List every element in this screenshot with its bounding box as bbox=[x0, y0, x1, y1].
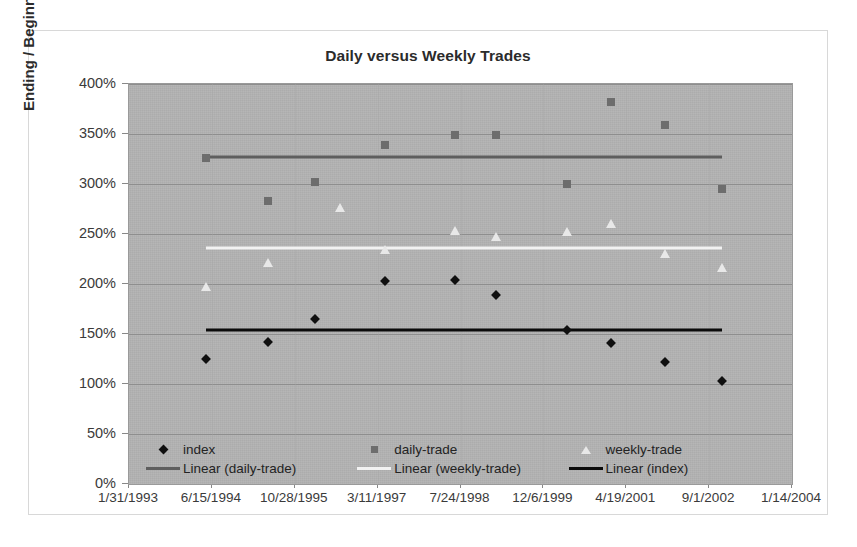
data-point-daily-trade bbox=[311, 178, 319, 186]
x-tick-label: 4/19/2001 bbox=[595, 490, 655, 505]
y-tick-label: 50% bbox=[30, 425, 116, 441]
y-tick-label: 100% bbox=[30, 375, 116, 391]
x-tick-label: 12/6/1999 bbox=[512, 490, 572, 505]
data-point-daily-trade bbox=[381, 141, 389, 149]
trendline bbox=[206, 155, 721, 158]
chart-title: Daily versus Weekly Trades bbox=[29, 47, 827, 65]
y-tick-label: 150% bbox=[30, 325, 116, 341]
legend-label-weekly-trade: weekly-trade bbox=[606, 442, 683, 457]
y-tick-label: 350% bbox=[30, 125, 116, 141]
data-point-weekly-trade bbox=[562, 227, 572, 236]
data-point-index bbox=[310, 314, 320, 324]
x-tick-label: 7/24/1998 bbox=[429, 490, 489, 505]
vertical-gridline bbox=[378, 84, 379, 484]
legend-item-linear-weekly-trade[interactable]: Linear (weekly-trade) bbox=[354, 459, 565, 478]
data-point-daily-trade bbox=[718, 185, 726, 193]
chart-legend: index daily-trade weekly-trade Linear (d… bbox=[143, 440, 777, 478]
x-tick-label: 3/11/1997 bbox=[347, 490, 406, 505]
vertical-gridline bbox=[461, 84, 462, 484]
data-point-weekly-trade bbox=[263, 258, 273, 267]
line-key-icon-daily bbox=[143, 467, 183, 470]
data-point-daily-trade bbox=[202, 154, 210, 162]
data-point-daily-trade bbox=[264, 197, 272, 205]
vertical-gridline bbox=[543, 84, 544, 484]
data-point-daily-trade bbox=[451, 131, 459, 139]
data-point-daily-trade bbox=[661, 121, 669, 129]
triangle-marker-icon bbox=[566, 446, 606, 454]
legend-label-daily-trade: daily-trade bbox=[394, 442, 457, 457]
data-point-daily-trade bbox=[563, 180, 571, 188]
data-point-weekly-trade bbox=[201, 282, 211, 291]
data-point-weekly-trade bbox=[491, 232, 501, 241]
legend-item-linear-daily-trade[interactable]: Linear (daily-trade) bbox=[143, 459, 354, 478]
x-tick-label: 1/14/2004 bbox=[761, 490, 821, 505]
vertical-gridline bbox=[709, 84, 710, 484]
data-point-weekly-trade bbox=[450, 226, 460, 235]
data-point-weekly-trade bbox=[335, 203, 345, 212]
y-axis-title: Ending / Beginning Value bbox=[20, 0, 37, 141]
legend-label-linear-daily-trade: Linear (daily-trade) bbox=[183, 461, 296, 476]
data-point-daily-trade bbox=[492, 131, 500, 139]
legend-row-markers: index daily-trade weekly-trade bbox=[143, 440, 777, 459]
data-point-daily-trade bbox=[607, 98, 615, 106]
trendline bbox=[206, 328, 721, 331]
data-point-index bbox=[201, 354, 211, 364]
y-tick-label: 250% bbox=[30, 225, 116, 241]
line-key-icon-weekly bbox=[354, 467, 394, 470]
legend-item-weekly-trade[interactable]: weekly-trade bbox=[566, 440, 777, 459]
vertical-gridline bbox=[295, 84, 296, 484]
x-tick-label: 6/15/1994 bbox=[181, 490, 241, 505]
vertical-gridline bbox=[626, 84, 627, 484]
x-tick-label: 9/1/2002 bbox=[682, 490, 735, 505]
y-tick-label: 0% bbox=[30, 475, 116, 491]
legend-row-trendlines: Linear (daily-trade) Linear (weekly-trad… bbox=[143, 459, 777, 478]
legend-item-daily-trade[interactable]: daily-trade bbox=[354, 440, 565, 459]
data-point-index bbox=[491, 290, 501, 300]
data-point-weekly-trade bbox=[717, 263, 727, 272]
square-marker-icon bbox=[354, 446, 394, 453]
plot-area: index daily-trade weekly-trade Linear (d… bbox=[128, 83, 793, 485]
x-tick-label: 10/28/1995 bbox=[260, 490, 328, 505]
x-tick-label: 1/31/1993 bbox=[98, 490, 158, 505]
legend-label-linear-index: Linear (index) bbox=[606, 461, 689, 476]
data-point-weekly-trade bbox=[380, 245, 390, 254]
chart-figure: Daily versus Weekly Trades Ending / Begi… bbox=[28, 30, 828, 515]
y-tick-label: 200% bbox=[30, 275, 116, 291]
data-point-weekly-trade bbox=[606, 219, 616, 228]
y-tick-label: 300% bbox=[30, 175, 116, 191]
legend-item-linear-index[interactable]: Linear (index) bbox=[566, 459, 777, 478]
line-key-icon-index bbox=[566, 467, 606, 470]
data-point-index bbox=[606, 338, 616, 348]
diamond-marker-icon bbox=[143, 446, 183, 453]
data-point-weekly-trade bbox=[660, 249, 670, 258]
trendline bbox=[206, 247, 721, 250]
legend-item-index[interactable]: index bbox=[143, 440, 354, 459]
data-point-index bbox=[660, 357, 670, 367]
y-tick-label: 400% bbox=[30, 75, 116, 91]
vertical-gridline bbox=[212, 84, 213, 484]
legend-label-linear-weekly-trade: Linear (weekly-trade) bbox=[394, 461, 521, 476]
legend-label-index: index bbox=[183, 442, 215, 457]
data-point-index bbox=[263, 337, 273, 347]
